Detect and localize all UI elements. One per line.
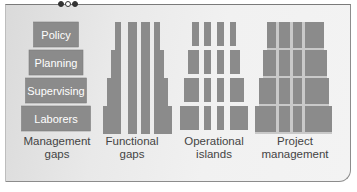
project-tier-seam [267, 48, 324, 50]
operational-island-block [188, 50, 199, 74]
project-column-seam [276, 50, 279, 77]
project-column-seam [290, 78, 293, 105]
operational-island-block [204, 22, 211, 46]
operational-island-block [204, 50, 211, 74]
functional-silo-segment [103, 106, 121, 134]
functional-silo-segment [115, 22, 121, 50]
management-level-label: Policy [41, 29, 71, 41]
functional-silo-segment [154, 22, 160, 50]
project-management-tower [255, 22, 332, 134]
project-column-seam [302, 78, 305, 105]
project-tier-bar [267, 22, 324, 49]
functional-silo-segment [128, 106, 137, 134]
caption-operational-islands: Operational islands [170, 135, 258, 161]
project-column-seam [290, 106, 293, 133]
project-column-seam [276, 78, 279, 105]
project-column-seam [276, 22, 279, 49]
operational-island-block [192, 22, 199, 46]
project-column-seam [302, 22, 305, 49]
project-tier-seam [263, 76, 327, 78]
project-tier-bar [259, 78, 329, 105]
caption-functional-gaps: Functional gaps [92, 135, 172, 161]
operational-island-block [204, 78, 211, 102]
functional-silo-segment [128, 78, 137, 106]
operational-island-block [230, 106, 248, 130]
operational-island-block [217, 106, 224, 130]
operational-island-block [204, 106, 211, 130]
functional-silo-segment [128, 22, 137, 50]
operational-island-block [230, 78, 244, 102]
functional-silo-segment [107, 78, 121, 106]
functional-silo-segment [154, 106, 172, 134]
operational-island-block [230, 22, 236, 46]
project-column-seam [302, 106, 305, 133]
project-tier-seam [255, 132, 332, 134]
operational-island-block [217, 50, 224, 74]
caption-management-gaps: Management gaps [12, 135, 102, 161]
project-tier-bar [255, 106, 332, 133]
functional-silo-segment [141, 50, 150, 78]
functional-silo-segment [128, 50, 137, 78]
management-level-label: Supervising [27, 85, 84, 97]
project-column-seam [290, 22, 293, 49]
operational-island-block [184, 78, 199, 102]
functional-silo-segment [154, 50, 164, 78]
functional-gaps-tower [103, 22, 172, 134]
functional-silo-segment [111, 50, 121, 78]
operational-island-block [217, 78, 224, 102]
caption-project-management: Project management [250, 135, 340, 161]
project-column-seam [276, 106, 279, 133]
organization-structures-diagram: PolicyPlanningSupervisingLaborers [0, 0, 357, 192]
project-tier-bar [263, 50, 327, 77]
operational-island-block [230, 50, 240, 74]
operational-island-block [180, 106, 199, 130]
functional-silo-segment [141, 106, 150, 134]
project-column-seam [290, 50, 293, 77]
management-gaps-stack: PolicyPlanningSupervisingLaborers [22, 22, 91, 131]
management-level-label: Laborers [34, 113, 78, 125]
operational-islands-tower [180, 22, 248, 130]
functional-silo-segment [154, 78, 168, 106]
project-tier-seam [259, 104, 329, 106]
functional-silo-segment [141, 78, 150, 106]
operational-island-block [217, 22, 224, 46]
management-level-label: Planning [35, 57, 78, 69]
functional-silo-segment [141, 22, 150, 50]
project-column-seam [302, 50, 305, 77]
